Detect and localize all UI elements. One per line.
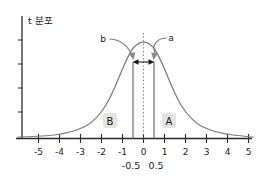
x-tick-label-n4: -4 bbox=[55, 147, 64, 157]
x-tick-label-3: 3 bbox=[204, 147, 210, 157]
region-label-B: B bbox=[107, 116, 114, 127]
annotation-label-b: b bbox=[100, 34, 106, 44]
region-label-A: A bbox=[166, 116, 173, 127]
x-tick-label-n1: -1 bbox=[118, 147, 127, 157]
x-tick-label-n3: -3 bbox=[76, 147, 85, 157]
x-tick-label-0: 0 bbox=[141, 147, 147, 157]
region-badge-B: B bbox=[103, 113, 117, 128]
x-label-pos-half: 0.5 bbox=[148, 160, 163, 171]
region-badge-A: A bbox=[162, 113, 176, 128]
annotation-label-a: a bbox=[168, 33, 174, 43]
x-tick-label-n5: -5 bbox=[34, 147, 43, 157]
x-tick-label-n2: -2 bbox=[97, 147, 106, 157]
x-label-neg-half: -0.5 bbox=[122, 160, 141, 171]
x-tick-label-1: 1 bbox=[162, 147, 168, 157]
x-tick-label-4: 4 bbox=[225, 147, 231, 157]
x-tick-label-2: 2 bbox=[183, 147, 189, 157]
y-axis-title: t 분포 bbox=[28, 15, 53, 26]
t-distribution-figure: t 분포 -5 -4 -3 -2 -1 0 1 2 3 4 5 B A bbox=[0, 0, 268, 179]
x-tick-label-5: 5 bbox=[246, 147, 252, 157]
